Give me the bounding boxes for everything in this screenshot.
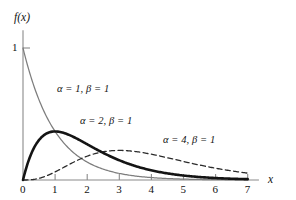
x-tick-label-0: 0: [20, 184, 26, 195]
curve-alpha-1: [23, 48, 248, 180]
axes-group: [23, 30, 259, 180]
curves-group: [23, 48, 248, 180]
x-tick-label-2: 2: [84, 184, 90, 195]
x-tick-label-4: 4: [148, 184, 154, 195]
y-axis-label: f(x): [14, 12, 30, 24]
series-label-alpha-2: α = 2, β = 1: [80, 116, 132, 127]
plot-area: [0, 0, 296, 200]
x-axis-label: x: [268, 174, 273, 186]
y-tick-label-1: 1: [12, 42, 18, 53]
series-label-alpha-4: α = 4, β = 1: [163, 135, 215, 146]
x-tick-label-1: 1: [52, 184, 58, 195]
x-tick-label-7: 7: [245, 184, 251, 195]
x-tick-label-5: 5: [181, 184, 187, 195]
x-tick-label-6: 6: [213, 184, 219, 195]
gamma-distribution-chart: f(x) x 1 01234567 α = 1, β = 1 α = 2, β …: [0, 0, 296, 200]
series-label-alpha-1: α = 1, β = 1: [57, 84, 109, 95]
x-tick-label-3: 3: [116, 184, 122, 195]
